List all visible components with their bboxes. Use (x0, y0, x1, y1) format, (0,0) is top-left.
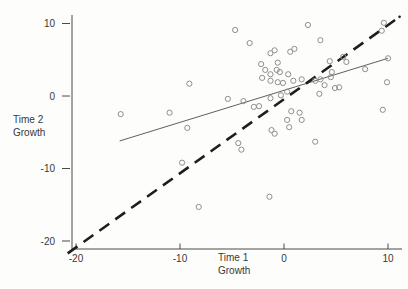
y-tick-label: 10 (44, 18, 56, 29)
scatter-point (344, 59, 349, 64)
scatter-plot-figure: 100-10-20-20-10010 Time 2 Growth Time 1 … (0, 0, 408, 289)
scatter-point (313, 139, 318, 144)
scatter-point (268, 96, 273, 101)
x-axis-title-line1: Time 1 (218, 252, 250, 265)
scatter-point (233, 27, 238, 32)
scatter-point (275, 60, 280, 65)
y-tick-label: 0 (49, 91, 55, 102)
scatter-point (236, 141, 241, 146)
y-tick-label: -10 (41, 163, 56, 174)
scatter-point (187, 81, 192, 86)
y-axis-title-line1: Time 2 (13, 114, 45, 127)
scatter-point (278, 93, 283, 98)
scatter-point (272, 48, 277, 53)
scatter-point (260, 75, 265, 80)
scatter-point (256, 104, 261, 109)
scatter-point (272, 131, 277, 136)
scatter-point (363, 67, 368, 72)
scatter-point (329, 69, 334, 74)
y-tick-label: -20 (41, 236, 56, 247)
scatter-point (179, 160, 184, 165)
identity-line (68, 19, 397, 253)
scatter-point (292, 46, 297, 51)
scatter-point (299, 77, 304, 82)
scatter-point (305, 22, 310, 27)
scatter-point (275, 80, 280, 85)
regression-line (120, 58, 388, 141)
scatter-point (185, 125, 190, 130)
scatter-point (225, 96, 230, 101)
scatter-point (289, 109, 294, 114)
scatter-point (118, 112, 123, 117)
x-tick-label: -10 (173, 253, 188, 264)
y-axis-title-line2: Growth (13, 127, 45, 140)
scatter-point (381, 20, 386, 25)
scatter-point (322, 83, 327, 88)
y-axis-title: Time 2 Growth (13, 114, 45, 139)
x-tick-label: 0 (281, 253, 287, 264)
identity-line-end-dot (398, 16, 401, 19)
scatter-point (384, 80, 389, 85)
scatter-point (379, 28, 384, 33)
scatter-point (285, 117, 290, 122)
scatter-point (196, 204, 201, 209)
scatter-point (259, 62, 264, 67)
scatter-point (268, 72, 273, 77)
scatter-point (297, 110, 302, 115)
scatter-point (286, 72, 291, 77)
scatter-point (299, 117, 304, 122)
scatter-point (287, 125, 292, 130)
scatter-point (327, 59, 332, 64)
scatter-point (263, 67, 268, 72)
scatter-point (251, 104, 256, 109)
scatter-chart-canvas: 100-10-20-20-10010 (0, 0, 408, 289)
scatter-point (239, 147, 244, 152)
x-tick-label: -20 (69, 253, 84, 264)
scatter-point (318, 38, 323, 43)
x-axis-title-line2: Growth (218, 265, 250, 278)
scatter-point (328, 75, 333, 80)
scatter-point (317, 91, 322, 96)
scatter-point (167, 110, 172, 115)
x-axis-title: Time 1 Growth (218, 252, 250, 277)
scatter-point (247, 40, 252, 45)
scatter-point (268, 78, 273, 83)
scatter-point (291, 78, 296, 83)
scatter-point (380, 107, 385, 112)
x-tick-label: 10 (382, 253, 394, 264)
scatter-point (267, 194, 272, 199)
scatter-point (280, 80, 285, 85)
